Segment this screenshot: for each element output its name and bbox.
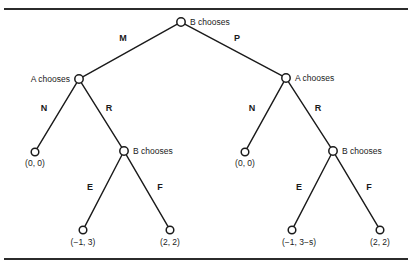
action-label-e-LA-R: R <box>106 103 113 113</box>
branch-e-RA-R <box>289 82 331 147</box>
action-label-e-LB-E: E <box>87 182 93 192</box>
branch-e-LA-R <box>82 83 122 147</box>
player-label-L-B: B chooses <box>133 146 173 156</box>
terminal-node-L-F-leaf <box>166 226 174 234</box>
player-label-L-A: A chooses <box>31 74 70 84</box>
player-label-R-A: A chooses <box>295 73 334 83</box>
payoff-label-p-L-F: (2, 2) <box>160 237 180 247</box>
branch-e-LA-N <box>37 83 76 148</box>
action-label-e-RB-E: E <box>296 182 302 192</box>
terminal-node-R-N-leaf <box>241 148 249 156</box>
action-label-e-root-LA: M <box>119 33 127 43</box>
payoff-label-group: (0, 0)(0, 0)(−1, 3)(2, 2)(−1, 3−s)(2, 2) <box>25 158 390 247</box>
player-label-R-B: B chooses <box>342 146 382 156</box>
node-group <box>31 18 384 234</box>
branch-group <box>37 24 377 226</box>
decision-node-R-B <box>329 147 337 155</box>
payoff-label-p-R-F: (2, 2) <box>370 237 390 247</box>
terminal-node-R-E-leaf <box>288 226 296 234</box>
terminal-node-L-N-leaf <box>31 148 39 156</box>
bottom-rule <box>4 258 408 260</box>
payoff-label-p-L-E: (−1, 3) <box>71 237 96 247</box>
payoff-label-p-R-N: (0, 0) <box>235 158 255 168</box>
terminal-node-R-F-leaf <box>376 226 384 234</box>
decision-node-root <box>177 18 185 26</box>
action-label-e-root-RA: P <box>234 33 240 43</box>
action-label-e-LB-F: F <box>157 182 163 192</box>
player-label-root: B chooses <box>190 17 230 27</box>
action-label-e-LA-N: N <box>41 103 48 113</box>
action-label-e-RA-R: R <box>315 103 322 113</box>
action-label-e-RA-N: N <box>249 103 256 113</box>
edge-label-group: MPNRNREFEF <box>41 33 373 192</box>
branch-e-RA-N <box>247 82 284 148</box>
game-tree-svg: MPNRNREFEF B choosesA choosesA choosesB … <box>0 0 414 267</box>
decision-node-R-A <box>282 74 290 82</box>
payoff-label-p-R-E: (−1, 3−s) <box>282 237 316 247</box>
decision-node-L-B <box>120 147 128 155</box>
payoff-label-p-L-N: (0, 0) <box>25 158 45 168</box>
branch-e-root-LA <box>83 24 177 76</box>
decision-node-L-A <box>75 75 83 83</box>
game-tree-figure: MPNRNREFEF B choosesA choosesA choosesB … <box>0 0 414 267</box>
action-label-e-RB-F: F <box>366 182 372 192</box>
branch-e-root-RA <box>185 24 282 75</box>
terminal-node-L-E-leaf <box>79 226 87 234</box>
